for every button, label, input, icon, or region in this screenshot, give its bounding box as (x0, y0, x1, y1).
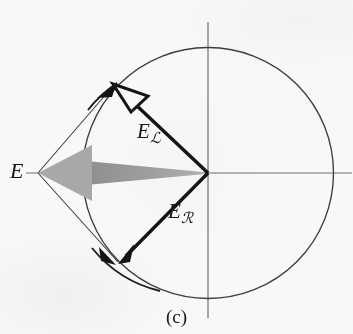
right-circular-vector (118, 173, 208, 264)
resultant-field-arrow (38, 145, 208, 201)
resultant-arrow-head (38, 145, 92, 201)
left-circular-field-label-subscript: ℒ (150, 129, 161, 147)
resultant-field-label-base: E (10, 158, 23, 183)
resultant-field-label: E (10, 160, 23, 182)
left-circular-field-label: Eℒ (137, 121, 161, 142)
resultant-arrow-shaft (86, 161, 208, 185)
right-circular-vector-shaft (126, 173, 208, 256)
right-circular-field-label: Eℛ (168, 201, 193, 222)
vector-phasor-figure: E Eℒ Eℛ (c) (0, 0, 353, 334)
right-circular-vector-arrowhead-solid (118, 244, 134, 264)
left-circular-field-label-base: E (137, 119, 150, 143)
right-circular-field-label-base: E (168, 199, 181, 223)
right-circular-field-label-subscript: ℛ (181, 209, 193, 227)
figure-drawing-canvas (0, 0, 353, 334)
figure-caption: (c) (0, 306, 353, 328)
left-circular-vector-arrowhead-open (113, 84, 148, 112)
